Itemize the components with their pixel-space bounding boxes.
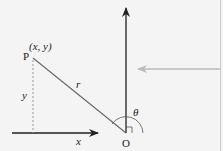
right-angle-mark [126,127,132,133]
origin-label: O [122,137,130,149]
angle-label: θ [133,106,139,118]
polar-coordinate-diagram: P (x, y) r y x O θ [0,0,223,151]
x-label: x [75,135,81,147]
y-label: y [21,89,27,101]
radius-line [33,58,126,133]
radius-label: r [76,78,81,90]
point-coords-label: (x, y) [29,40,52,53]
